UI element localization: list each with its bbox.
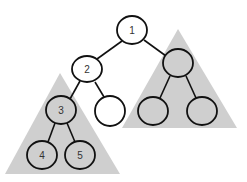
- node-label-3: 3: [58, 105, 64, 116]
- right-subtree-root-node: [163, 49, 193, 77]
- right-subtree-right-node: [187, 97, 217, 125]
- node-label-4: 4: [39, 150, 45, 161]
- tree-diagram: 1 2 3 4 5: [0, 0, 247, 182]
- node-label-1: 1: [129, 25, 135, 36]
- node-label-5: 5: [77, 150, 83, 161]
- node-label-2: 2: [84, 64, 90, 75]
- tree-node-empty: [95, 96, 125, 126]
- right-subtree-left-node: [138, 97, 168, 125]
